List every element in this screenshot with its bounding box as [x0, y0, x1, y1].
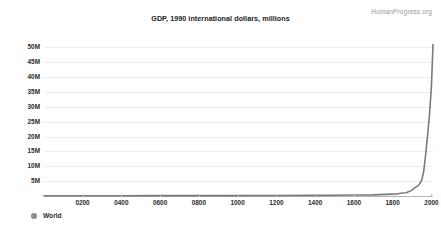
legend-label-world: World	[43, 212, 62, 220]
x-axis-tick-mark	[354, 194, 355, 197]
legend: World	[31, 212, 62, 220]
gdp-line-chart: GDP, 1990 international dollars, million…	[0, 0, 441, 233]
x-axis-tick-mark	[431, 194, 432, 197]
legend-marker-world-icon	[31, 213, 37, 219]
x-axis-tick-mark	[160, 194, 161, 197]
x-axis-tick-mark	[393, 194, 394, 197]
series-line-world	[44, 45, 433, 196]
x-axis-tick-mark	[83, 194, 84, 197]
x-axis-tick-mark	[276, 194, 277, 197]
x-axis-tick-mark	[315, 194, 316, 197]
series-layer	[0, 0, 441, 233]
x-axis-tick-mark	[238, 194, 239, 197]
x-axis-tick-mark	[121, 194, 122, 197]
x-axis-tick-mark	[199, 194, 200, 197]
